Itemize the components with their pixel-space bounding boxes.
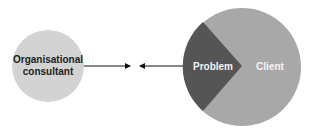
diagram-canvas: Organisational consultant Problem Client (0, 0, 311, 132)
problem-label: Problem (193, 61, 233, 72)
client-label: Client (256, 61, 284, 72)
consultant-label-line1: Organisational (13, 54, 83, 65)
consultant-label-line2: consultant (23, 66, 74, 77)
consultant-node: Organisational consultant (12, 30, 84, 102)
client-node: Problem Client (183, 8, 301, 126)
